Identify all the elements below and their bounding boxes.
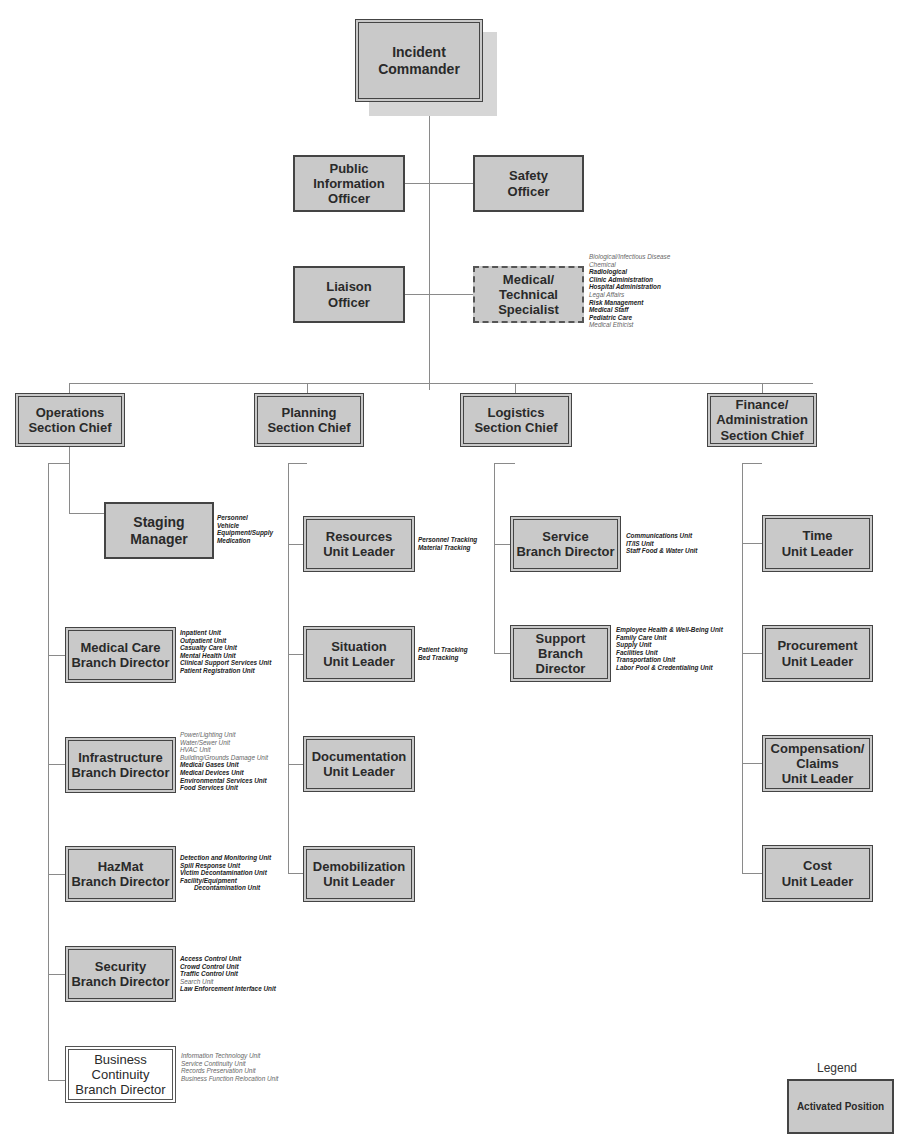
connector-finance-compensation (742, 763, 763, 764)
connector-finance-time (742, 543, 763, 544)
finance-section-chief-box[interactable]: Finance/ Administration Section Chief (707, 393, 817, 447)
business-continuity-note: Information Technology Unit (181, 1052, 278, 1060)
resources-unit-box[interactable]: Resources Unit Leader (303, 516, 415, 572)
connector-ops-security (48, 974, 66, 975)
documentation-unit-label: Documentation Unit Leader (312, 749, 407, 780)
public-information-officer-label: Public Information Officer (313, 161, 385, 207)
infrastructure-note: Building/Grounds Damage Unit (180, 754, 268, 762)
specialist-note: Chemical (589, 261, 670, 269)
medical-care-branch-box[interactable]: Medical Care Branch Director (65, 627, 176, 683)
specialist-note: Hospital Administration (589, 283, 670, 291)
staging-manager-label: Staging Manager (130, 514, 188, 547)
business-continuity-note: Service Continuity Unit (181, 1060, 278, 1068)
staging-notes: Personnel Vehicle Equipment/Supply Medic… (217, 514, 273, 544)
situation-unit-label: Situation Unit Leader (323, 639, 395, 670)
safety-officer-box[interactable]: Safety Officer (473, 155, 584, 212)
business-continuity-branch-box[interactable]: Business Continuity Branch Director (65, 1046, 176, 1103)
business-continuity-branch-label: Business Continuity Branch Director (75, 1052, 165, 1098)
connector-ops-business (48, 1080, 66, 1081)
cost-unit-box[interactable]: Cost Unit Leader (762, 845, 873, 902)
medical-care-note: Clinical Support Services Unit (180, 659, 271, 667)
incident-commander-box[interactable]: Incident Commander (355, 19, 483, 102)
procurement-unit-box[interactable]: Procurement Unit Leader (762, 625, 873, 682)
situation-unit-box[interactable]: Situation Unit Leader (303, 626, 415, 682)
specialist-note: Legal Affairs (589, 291, 670, 299)
hazmat-note: Decontamination Unit (180, 884, 271, 892)
security-note: Access Control Unit (180, 955, 276, 963)
hazmat-branch-box[interactable]: HazMat Branch Director (65, 846, 176, 902)
staging-note: Medication (217, 537, 273, 545)
time-unit-box[interactable]: Time Unit Leader (762, 515, 873, 572)
infrastructure-branch-box[interactable]: Infrastructure Branch Director (65, 737, 176, 793)
infrastructure-note: Environmental Services Unit (180, 777, 268, 785)
planning-section-chief-box[interactable]: Planning Section Chief (254, 393, 364, 447)
connector-ops-main-vert (48, 463, 49, 1080)
security-note: Crowd Control Unit (180, 963, 276, 971)
liaison-officer-box[interactable]: Liaison Officer (293, 266, 405, 323)
service-notes: Communications Unit IT/IS Unit Staff Foo… (626, 532, 697, 555)
connector-ops-main-top (48, 463, 69, 464)
service-branch-box[interactable]: Service Branch Director (510, 516, 621, 572)
resources-note: Personnel Tracking (418, 536, 477, 544)
medical-care-note: Patient Registration Unit (180, 667, 271, 675)
support-branch-box[interactable]: Support Branch Director (510, 625, 611, 682)
hazmat-notes: Detection and Monitoring Unit Spill Resp… (180, 854, 271, 892)
connector-planning-top (288, 463, 307, 464)
demobilization-unit-label: Demobilization Unit Leader (313, 859, 405, 890)
infrastructure-notes: Power/Lighting Unit Water/Sewer Unit HVA… (180, 731, 268, 792)
logistics-section-chief-box[interactable]: Logistics Section Chief (460, 393, 572, 447)
connector-logistics-vert (494, 463, 495, 653)
specialist-note: Risk Management (589, 299, 670, 307)
infrastructure-note: Water/Sewer Unit (180, 739, 268, 747)
support-note: Facilities Unit (616, 649, 723, 657)
compensation-claims-unit-box[interactable]: Compensation/ Claims Unit Leader (762, 735, 873, 792)
specialist-note: Clinic Administration (589, 276, 670, 284)
medical-technical-specialist-label: Medical/ Technical Specialist (498, 272, 559, 318)
security-branch-label: Security Branch Director (71, 959, 169, 990)
connector-liaison-specialist (404, 294, 474, 295)
demobilization-unit-box[interactable]: Demobilization Unit Leader (303, 846, 415, 902)
connector-logistics-service (494, 544, 510, 545)
infrastructure-note: Food Services Unit (180, 784, 268, 792)
resources-note: Material Tracking (418, 544, 477, 552)
situation-note: Bed Tracking (418, 654, 468, 662)
staging-manager-box[interactable]: Staging Manager (104, 502, 214, 559)
finance-section-chief-label: Finance/ Administration Section Chief (716, 397, 808, 443)
connector-ops-hazmat (48, 874, 66, 875)
support-note: Labor Pool & Credentialing Unit (616, 664, 723, 672)
connector-logistics-top (494, 463, 515, 464)
legend-title: Legend (817, 1061, 857, 1075)
time-unit-label: Time Unit Leader (782, 528, 854, 559)
specialist-note: Pediatric Care (589, 314, 670, 322)
security-note: Search Unit (180, 978, 276, 986)
specialist-note: Radiological (589, 268, 670, 276)
hazmat-note: Spill Response Unit (180, 862, 271, 870)
infrastructure-branch-label: Infrastructure Branch Director (71, 750, 169, 781)
medical-care-note: Casualty Care Unit (180, 644, 271, 652)
medical-technical-specialist-box[interactable]: Medical/ Technical Specialist (473, 266, 584, 323)
security-note: Law Enforcement Interface Unit (180, 985, 276, 993)
documentation-unit-box[interactable]: Documentation Unit Leader (303, 736, 415, 792)
resources-unit-label: Resources Unit Leader (323, 529, 395, 560)
operations-section-chief-box[interactable]: Operations Section Chief (15, 393, 125, 447)
connector-planning-resources (288, 544, 304, 545)
public-information-officer-box[interactable]: Public Information Officer (293, 155, 405, 212)
connector-logistics-support (494, 653, 510, 654)
situation-notes: Patient Tracking Bed Tracking (418, 646, 468, 661)
staging-note: Vehicle (217, 522, 273, 530)
connector-finance-procurement (742, 653, 763, 654)
specialist-note: Biological/Infectious Disease (589, 253, 670, 261)
medical-care-note: Inpatient Unit (180, 629, 271, 637)
staging-note: Personnel (217, 514, 273, 522)
situation-note: Patient Tracking (418, 646, 468, 654)
connector-ops-staging-horiz (69, 513, 105, 514)
connector-finance-cost (742, 873, 763, 874)
compensation-claims-unit-label: Compensation/ Claims Unit Leader (771, 741, 865, 787)
connector-planning-demobilization (288, 873, 304, 874)
hazmat-branch-label: HazMat Branch Director (71, 859, 169, 890)
security-branch-box[interactable]: Security Branch Director (65, 946, 176, 1002)
infrastructure-note: HVAC Unit (180, 746, 268, 754)
connector-ops-staging-vert (69, 447, 70, 513)
resources-notes: Personnel Tracking Material Tracking (418, 536, 477, 551)
hazmat-note: Victim Decontamination Unit (180, 869, 271, 877)
